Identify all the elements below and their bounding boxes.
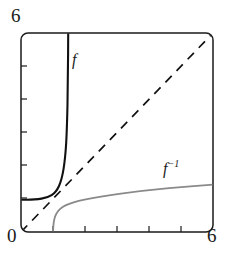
f-curve	[21, 33, 68, 200]
y-axis-max-label: 6	[11, 6, 21, 25]
f-inverse-exponent: −1	[167, 158, 179, 169]
figure-root: 6 0 6 f f−1	[0, 0, 228, 262]
f-curve-label: f	[72, 52, 76, 68]
x-axis-ticks	[53, 226, 181, 232]
plot-canvas	[0, 0, 228, 262]
x-axis-max-label: 6	[207, 226, 217, 245]
f-inverse-curve	[53, 185, 213, 232]
y-axis-ticks	[21, 66, 27, 198]
origin-label: 0	[7, 226, 17, 245]
identity-line	[21, 33, 213, 232]
f-inverse-curve-label: f−1	[163, 160, 179, 177]
